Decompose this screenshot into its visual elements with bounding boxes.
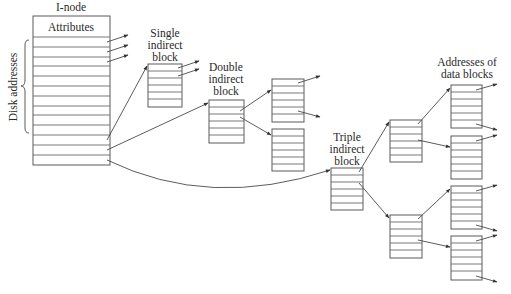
child2-to-data-3	[418, 189, 450, 219]
double-indirect-pointer	[107, 103, 208, 150]
triple-indirect-label-2: indirect	[329, 143, 365, 155]
single-indirect-pointer	[107, 66, 147, 140]
data-block-1	[451, 85, 482, 128]
triple-child-block-2	[390, 215, 422, 258]
data-block-2	[451, 136, 482, 179]
single-indirect-label-3: block	[152, 51, 178, 63]
inode-diagram: I-node Attributes Disk addresses Single …	[0, 0, 511, 294]
disk-addresses-brace	[21, 40, 29, 133]
triple-indirect-block	[331, 168, 363, 210]
data-addresses-label-2: data blocks	[441, 68, 494, 80]
child2-to-data-4	[418, 240, 450, 247]
single-indirect-label-2: indirect	[147, 39, 183, 51]
double-child-block-1	[272, 79, 304, 122]
single-indirect-block	[148, 64, 182, 107]
inode-label: I-node	[56, 1, 86, 13]
double-indirect-label-2: indirect	[208, 73, 244, 85]
triple-indirect-label-3: block	[334, 155, 360, 167]
triple-child-block-1	[390, 120, 422, 162]
attributes-label: Attributes	[48, 21, 95, 33]
data-addresses-label-1: Addresses of	[437, 56, 497, 68]
double-indirect-label-3: block	[213, 85, 239, 97]
inode-block	[33, 16, 110, 165]
disk-addresses-label: Disk addresses	[7, 52, 19, 121]
double-to-child-2	[240, 117, 271, 135]
double-indirect-block	[209, 100, 244, 143]
double-child-block-2	[272, 129, 304, 171]
data-block-4	[451, 236, 482, 280]
child1-to-data-1	[418, 88, 450, 124]
double-to-child-1	[240, 90, 271, 111]
double-indirect-label-1: Double	[209, 61, 243, 73]
child1-to-data-2	[418, 140, 450, 147]
data-block-3	[451, 186, 482, 229]
